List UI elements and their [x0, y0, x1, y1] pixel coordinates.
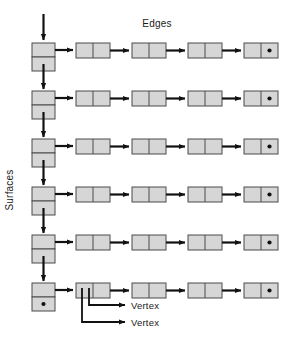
null-dot-icon	[267, 240, 271, 244]
edge-node-2-0[interactable]	[76, 139, 110, 154]
surfaces-title: Surfaces	[4, 169, 15, 210]
edge-node-1-1[interactable]	[132, 91, 166, 106]
edge-node-0-1[interactable]	[132, 43, 166, 58]
edge-node-5-3-null[interactable]	[244, 283, 278, 298]
vertex-label-2: Vertex	[131, 317, 159, 328]
null-dot-icon	[41, 302, 45, 306]
surface-node-5-null[interactable]	[32, 283, 55, 311]
null-dot-icon	[267, 288, 271, 292]
edge-node-2-3-null[interactable]	[244, 139, 278, 154]
edge-node-4-1[interactable]	[132, 235, 166, 250]
null-dot-icon	[267, 96, 271, 100]
edge-node-4-3-null[interactable]	[244, 235, 278, 250]
edge-node-3-3-null[interactable]	[244, 187, 278, 202]
edge-node-2-2[interactable]	[188, 139, 222, 154]
vertex-label-1: Vertex	[131, 300, 159, 311]
edge-node-5-2[interactable]	[188, 283, 222, 298]
edge-node-1-2[interactable]	[188, 91, 222, 106]
edge-node-3-0[interactable]	[76, 187, 110, 202]
edge-node-5-1[interactable]	[132, 283, 166, 298]
edge-node-3-2[interactable]	[188, 187, 222, 202]
linked-list-diagram: Edges Surfaces	[0, 0, 281, 344]
diagram-canvas: Edges Surfaces	[0, 0, 281, 344]
edge-node-3-1[interactable]	[132, 187, 166, 202]
edge-node-1-3-null[interactable]	[244, 91, 278, 106]
null-dot-icon	[267, 192, 271, 196]
edge-node-0-0[interactable]	[76, 43, 110, 58]
null-dot-icon	[267, 144, 271, 148]
null-dot-icon	[267, 48, 271, 52]
edge-node-2-1[interactable]	[132, 139, 166, 154]
edge-node-0-2[interactable]	[188, 43, 222, 58]
edge-node-4-0[interactable]	[76, 235, 110, 250]
edges-title: Edges	[142, 18, 171, 29]
edge-node-1-0[interactable]	[76, 91, 110, 106]
edge-node-4-2[interactable]	[188, 235, 222, 250]
edge-node-0-3-null[interactable]	[244, 43, 278, 58]
